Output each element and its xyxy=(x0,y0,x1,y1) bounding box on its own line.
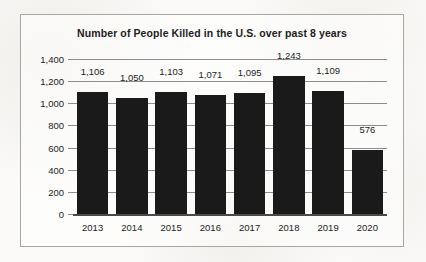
bar-value-label: 1,106 xyxy=(81,66,105,79)
x-axis-tick-label: 2014 xyxy=(121,222,142,233)
y-tick-mark xyxy=(68,214,73,215)
y-axis-tick-label: 0 xyxy=(59,209,64,220)
bar xyxy=(312,91,343,214)
bar-group: 1,2432018 xyxy=(269,59,308,214)
bar xyxy=(116,98,147,214)
y-axis-tick-label: 1,200 xyxy=(40,76,64,87)
bar-group: 1,0712016 xyxy=(191,59,230,214)
bar-value-label: 576 xyxy=(359,124,375,137)
bar-value-label: 1,109 xyxy=(316,65,340,78)
bar xyxy=(273,76,304,214)
bar-value-label: 1,050 xyxy=(120,72,144,85)
axis-baseline xyxy=(73,214,387,216)
x-axis-tick-label: 2015 xyxy=(161,222,182,233)
x-axis-tick-label: 2017 xyxy=(239,222,260,233)
bar xyxy=(77,92,108,214)
bar xyxy=(234,93,265,214)
bar xyxy=(352,150,383,214)
y-axis-tick-label: 200 xyxy=(48,186,64,197)
x-axis-tick-label: 2019 xyxy=(318,222,339,233)
bar-series: 1,10620131,05020141,10320151,07120161,09… xyxy=(73,59,387,214)
bar-group: 5762020 xyxy=(348,59,387,214)
bar-value-label: 1,071 xyxy=(198,69,222,82)
bar-value-label: 1,243 xyxy=(277,50,301,63)
chart-title: Number of People Killed in the U.S. over… xyxy=(21,27,403,39)
y-axis-tick-label: 600 xyxy=(48,142,64,153)
bar-group: 1,1062013 xyxy=(73,59,112,214)
y-axis-tick-label: 400 xyxy=(48,164,64,175)
bar-group: 1,0952017 xyxy=(230,59,269,214)
x-axis-tick-label: 2013 xyxy=(82,222,103,233)
bar-group: 1,1092019 xyxy=(309,59,348,214)
y-axis-tick-label: 1,400 xyxy=(40,54,64,65)
x-axis-tick-label: 2020 xyxy=(357,222,378,233)
bar xyxy=(155,92,186,214)
plot-area: 02004006008001,0001,2001,400 1,10620131,… xyxy=(73,59,387,214)
bar-value-label: 1,103 xyxy=(159,66,183,79)
x-axis-tick-label: 2016 xyxy=(200,222,221,233)
y-axis-tick-label: 800 xyxy=(48,120,64,131)
bar-group: 1,1032015 xyxy=(152,59,191,214)
bar xyxy=(195,95,226,214)
x-axis-tick-label: 2018 xyxy=(278,222,299,233)
bar-value-label: 1,095 xyxy=(238,67,262,80)
y-axis-tick-label: 1,000 xyxy=(40,98,64,109)
bar-group: 1,0502014 xyxy=(112,59,151,214)
chart-frame: Number of People Killed in the U.S. over… xyxy=(20,14,404,247)
